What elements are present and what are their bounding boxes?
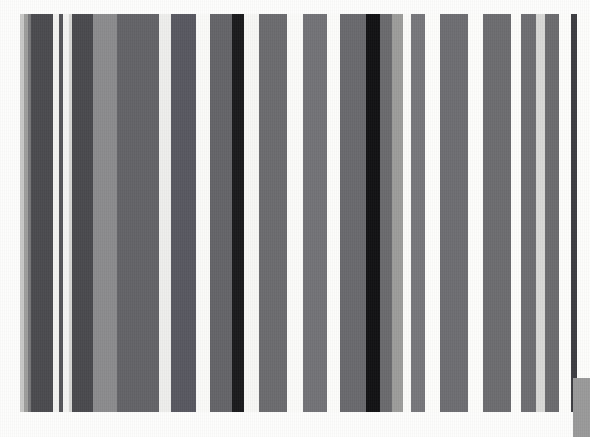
stripe-bar [210, 14, 232, 412]
stripe-bar [244, 14, 259, 412]
stripe-bar [287, 14, 303, 412]
stripe-bar [559, 14, 571, 412]
stripe-bar [545, 14, 559, 412]
stripe-bar [411, 14, 425, 412]
stripe-bar [392, 14, 403, 412]
stripe-bar [93, 14, 117, 412]
stripe-bar [72, 14, 93, 412]
stripe-bar [403, 14, 411, 412]
stripe-bar [259, 14, 287, 412]
stripe-bar [483, 14, 511, 412]
stripe-bar [196, 14, 210, 412]
stripe-bar [366, 14, 380, 412]
stripe-bar [536, 14, 545, 412]
stripe-bar [340, 14, 366, 412]
stripes-layer [0, 14, 590, 412]
stripe-bar [521, 14, 536, 412]
stripe-bar [327, 14, 340, 412]
stripe-bar [303, 14, 327, 412]
stripe-bar [511, 14, 521, 412]
stripe-bar [380, 14, 392, 412]
stripe-bar [440, 14, 468, 412]
stripe-bar [159, 14, 171, 412]
stripe-bar [171, 14, 196, 412]
stripe-bar [425, 14, 440, 412]
stripe-bar [577, 14, 590, 412]
stripe-bar [232, 14, 244, 412]
stripe-bar [468, 14, 483, 412]
stripe-image-canvas [0, 0, 590, 437]
bottom-right-gray-block [573, 378, 590, 437]
stripe-bar [31, 14, 53, 412]
stripe-bar [117, 14, 159, 412]
